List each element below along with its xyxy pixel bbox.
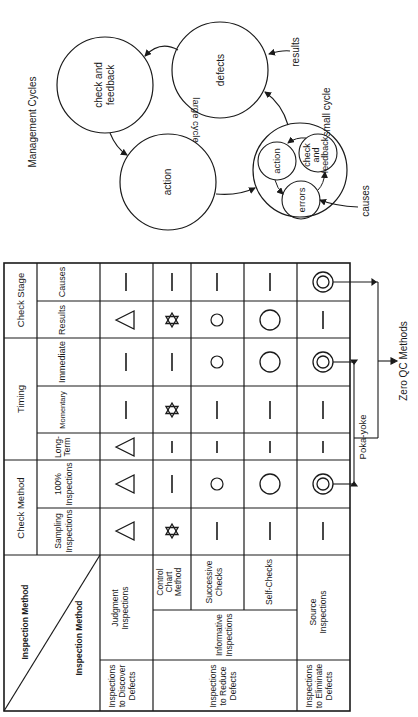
small-circle-check: check and feedback <box>299 134 337 173</box>
large-circle-defects: defects <box>172 22 268 118</box>
poka-yoke-label: Poka-yoke <box>357 415 368 460</box>
svg-text:feedback: feedback <box>105 64 116 106</box>
defects-label: defects <box>215 54 226 86</box>
check-feedback-line1: check and <box>93 62 104 108</box>
large-cycle-label: large cycle <box>191 97 202 142</box>
svg-text:check and: check and <box>93 62 104 108</box>
row-eliminate-3: Defects <box>324 672 334 701</box>
row-judgment-1: Judgment <box>110 589 120 627</box>
cycles-title: Management Cycles <box>27 76 38 167</box>
small-circle-errors: errors <box>282 181 320 219</box>
row-successive-1: Successive <box>204 560 214 603</box>
row-discover-3: Defects <box>127 672 137 701</box>
arrow-action-to-small <box>216 188 255 194</box>
row-discover-2: to Discover <box>117 665 127 708</box>
row-informative-1: Informative <box>214 614 224 656</box>
zero-qc-bracket <box>333 279 397 438</box>
arrow-check-to-action <box>110 133 127 155</box>
col-immediate: Immediate <box>57 341 67 383</box>
corner-bottom-label: Inspection Method <box>74 600 84 675</box>
symbol-star-icon <box>166 524 178 538</box>
row-reduce-3: Defects <box>228 672 238 701</box>
check-feedback-line2: feedback <box>105 64 116 106</box>
arrow-defects-to-check <box>145 46 178 56</box>
symbol-large-circle-icon <box>260 474 280 494</box>
symbol-triangle-icon <box>116 475 134 493</box>
management-cycles: Management Cycles check and feedback act… <box>27 22 371 230</box>
symbol-small-circle-icon <box>211 478 223 490</box>
symbol-star-icon <box>166 403 178 417</box>
small-check-line3: feedback <box>320 136 330 173</box>
symbol-grid <box>116 272 333 540</box>
row-informative-2: Inspections <box>224 614 234 657</box>
row-eliminate-1: Inspections <box>304 665 314 708</box>
col-long-term-2: Term <box>62 438 72 457</box>
diagram-canvas: Management Cycles check and feedback act… <box>0 0 418 717</box>
symbol-double-circle-icon <box>313 272 333 292</box>
header-check-method: Check Method <box>15 477 26 538</box>
causes-label: causes <box>360 185 371 217</box>
symbol-large-circle-icon <box>260 352 280 372</box>
row-eliminate-2: to Eliminate <box>314 664 324 709</box>
small-cycle-label: small cycle <box>321 87 332 136</box>
row-successive-2: Checks <box>214 568 224 596</box>
row-discover-1: Inspections <box>107 665 117 708</box>
col-results: Results <box>57 304 67 335</box>
zero-qc-label: Zero QC Methods <box>398 321 409 400</box>
row-source-1: Source <box>308 598 318 625</box>
results-label: results <box>290 37 301 66</box>
arrow-small-to-defects <box>265 92 288 125</box>
row-self-checks: Self-Checks <box>264 559 274 605</box>
row-source-2: Inspections <box>318 591 328 634</box>
row-judgment-2: Inspections <box>120 587 130 630</box>
arrow-results <box>269 51 290 54</box>
arrow-causes <box>320 200 358 207</box>
symbol-star-icon <box>166 313 178 327</box>
errors-label: errors <box>296 187 307 212</box>
col-sampling-2: Inspections <box>64 510 74 553</box>
symbol-triangle-icon <box>116 522 134 540</box>
col-momentary: Momentary <box>58 391 67 429</box>
corner-top-label: Inspection Method <box>20 584 30 659</box>
action-label: action <box>162 169 173 196</box>
large-circle-action: action <box>120 134 216 230</box>
col-100pct-2: Inspections <box>64 463 74 506</box>
small-action-label: action <box>271 148 282 173</box>
large-circle-check-feedback: check and feedback <box>57 37 153 133</box>
symbol-large-circle-icon <box>260 310 280 330</box>
header-check-stage: Check Stage <box>15 273 26 327</box>
symbol-triangle-icon <box>116 438 134 456</box>
small-cycle: action check and feedback errors <box>253 123 347 219</box>
poka-yoke-bracket <box>333 360 378 486</box>
header-timing: Timing <box>15 385 26 413</box>
symbol-double-circle-icon <box>313 352 333 372</box>
symbol-small-circle-icon <box>211 314 223 326</box>
symbol-double-circle-icon <box>313 474 333 494</box>
col-causes: Causes <box>57 266 67 297</box>
arrow-errors-to-check <box>318 172 325 190</box>
symbol-triangle-icon <box>116 311 134 329</box>
row-reduce-1: Inspections <box>208 665 218 708</box>
table-headers: Check Stage Timing Check Method Causes R… <box>15 266 334 708</box>
small-circle-action: action <box>258 142 296 180</box>
col-sampling-1: Sampling <box>53 513 63 549</box>
row-reduce-2: to Reduce <box>218 666 228 705</box>
col-100pct-1: 100% <box>53 473 63 495</box>
arrow-action-to-errors <box>275 180 283 194</box>
symbol-small-circle-icon <box>211 356 223 368</box>
row-control-chart-3: Method <box>173 568 183 597</box>
